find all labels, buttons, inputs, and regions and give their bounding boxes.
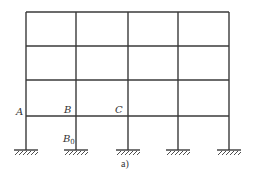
upper-frame (26, 12, 229, 116)
node-label-A: A (16, 107, 23, 117)
node-label-B0-sub: 0 (70, 138, 74, 146)
node-label-C: C (115, 105, 123, 115)
node-label-B0: B0 (63, 134, 75, 146)
ground-floor (26, 116, 229, 150)
supports (14, 150, 241, 155)
node-label-B: B (64, 105, 71, 115)
figure-caption: a) (121, 159, 129, 169)
frame-diagram (0, 0, 256, 172)
